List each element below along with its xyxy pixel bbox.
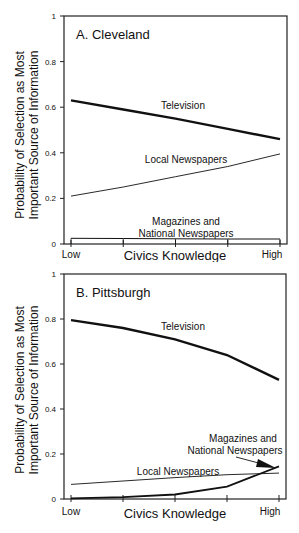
x-tick-label-low: Low	[62, 506, 81, 517]
y-tick-label: 0.2	[45, 450, 57, 459]
chart-panel-cleveland: 00.20.40.60.81 A. Cleveland Probability …	[0, 0, 299, 262]
plot-frame	[64, 16, 287, 244]
chart-panel-pittsburgh: 00.20.40.60.81 B. Pittsburgh Probability…	[0, 262, 299, 533]
y-tick-label: 1	[52, 270, 57, 279]
series-magazines-national-newspapers	[71, 238, 280, 244]
y-tick-label: 0	[52, 240, 57, 249]
chart-pittsburgh: 00.20.40.60.81 B. Pittsburgh Probability…	[0, 262, 299, 533]
annotation-magazines-line2: National Newspapers	[138, 228, 233, 239]
y-tick-label: 1	[52, 12, 57, 21]
x-axis-label: Civics Knowledge	[124, 248, 227, 262]
y-axis-label: Probability of Selection as Most Importa…	[13, 51, 41, 220]
annotation-television: Television	[161, 321, 205, 332]
panel-title: B. Pittsburgh	[76, 285, 150, 300]
annotation-local-newspapers: Local Newspapers	[137, 466, 219, 477]
y-axis-label: Probability of Selection as Most Importa…	[13, 306, 41, 475]
y-axis-ticks: 00.20.40.60.81	[45, 270, 64, 504]
y-axis-ticks: 00.20.40.60.81	[45, 12, 64, 249]
annotation-television: Television	[161, 100, 205, 111]
annotation-magazines-line1: Magazines and	[209, 433, 277, 444]
y-tick-label: 0.6	[45, 103, 57, 112]
y-tick-label: 0.6	[45, 360, 57, 369]
y-tick-label: 0.8	[45, 315, 57, 324]
svg-text:Probability of Selection as Mo: Probability of Selection as Most	[13, 51, 27, 219]
annotation-magazines-line1: Magazines and	[152, 216, 220, 227]
x-tick-label-low: Low	[62, 249, 81, 260]
svg-text:Important Source of Informatio: Important Source of Information	[27, 306, 41, 475]
y-tick-label: 0	[52, 495, 57, 504]
x-tick-label-high: High	[260, 506, 281, 517]
svg-text:Important Source of Informatio: Important Source of Information	[27, 51, 41, 220]
annotation-arrow-icon	[236, 457, 276, 468]
x-axis-label: Civics Knowledge	[124, 506, 227, 521]
annotation-magazines-line2: National Newspapers	[187, 445, 282, 456]
y-tick-label: 0.8	[45, 58, 57, 67]
y-tick-label: 0.2	[45, 194, 57, 203]
chart-cleveland: 00.20.40.60.81 A. Cleveland Probability …	[0, 0, 299, 262]
y-tick-label: 0.4	[45, 405, 57, 414]
annotation-local-newspapers: Local Newspapers	[145, 154, 227, 165]
panel-title: A. Cleveland	[76, 27, 150, 42]
x-tick-label-high: High	[262, 249, 283, 260]
y-tick-label: 0.4	[45, 149, 57, 158]
svg-text:Probability of Selection as Mo: Probability of Selection as Most	[13, 306, 27, 474]
